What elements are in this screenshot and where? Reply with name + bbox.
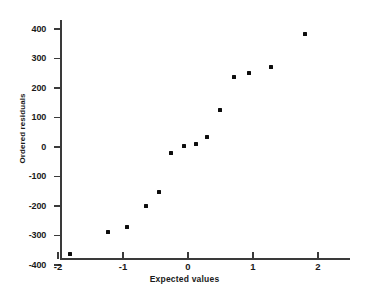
x-tick-label: 1 — [242, 262, 264, 272]
plot-area: 4003002001000-100-200-300-400 -2-1012 Ex… — [0, 0, 369, 294]
x-axis-line — [60, 258, 350, 260]
data-point — [247, 71, 251, 75]
data-point — [157, 190, 161, 194]
data-point — [125, 225, 129, 229]
data-point — [269, 65, 273, 69]
x-tick-mark — [57, 252, 58, 259]
x-tick-label: 0 — [177, 262, 199, 272]
x-tick-mark — [187, 252, 188, 259]
y-tick-mark — [54, 28, 61, 29]
x-tick-mark — [122, 252, 123, 259]
y-tick-mark — [54, 146, 61, 147]
data-point — [194, 142, 198, 146]
normal-probability-plot-figure: 4003002001000-100-200-300-400 -2-1012 Ex… — [0, 0, 369, 294]
y-axis-title: Ordered residuals — [18, 89, 27, 169]
y-tick-mark — [54, 235, 61, 236]
x-tick-label: -1 — [112, 262, 134, 272]
y-tick-mark — [54, 205, 61, 206]
x-tick-mark — [317, 252, 318, 259]
data-point — [182, 144, 186, 148]
data-point — [68, 252, 72, 256]
x-tick-mark — [252, 252, 253, 259]
x-tick-label: 2 — [307, 262, 329, 272]
y-axis-line — [60, 20, 62, 260]
y-tick-mark — [54, 117, 61, 118]
y-tick-mark — [54, 58, 61, 59]
y-tick-label: 300 — [14, 54, 46, 63]
data-point — [144, 204, 148, 208]
x-tick-label: -2 — [47, 262, 69, 272]
y-tick-mark — [54, 176, 61, 177]
data-point — [205, 135, 209, 139]
y-tick-label: -400 — [14, 261, 46, 270]
data-point — [232, 75, 236, 79]
y-tick-label: 400 — [14, 25, 46, 34]
x-axis-title: Expected values — [0, 274, 369, 284]
y-tick-label: -100 — [14, 172, 46, 181]
data-point — [169, 151, 173, 155]
data-point — [303, 32, 307, 36]
y-tick-label: -300 — [14, 231, 46, 240]
y-tick-label: -200 — [14, 202, 46, 211]
data-point — [106, 230, 110, 234]
y-tick-mark — [54, 87, 61, 88]
data-point — [218, 108, 222, 112]
